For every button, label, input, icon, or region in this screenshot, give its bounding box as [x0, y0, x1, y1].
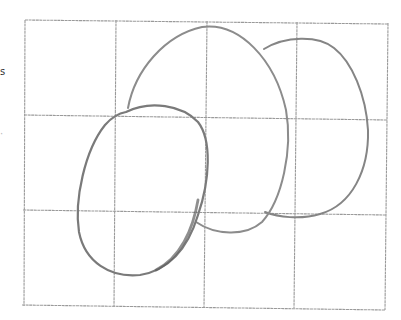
- grid-line-v0: [24, 20, 25, 306]
- left-front-oval: [78, 105, 208, 275]
- large-center-oval: [128, 27, 288, 233]
- grid-line-v4: [385, 23, 388, 310]
- grid-line-v3: [294, 22, 297, 308]
- grid-line-v2: [204, 21, 207, 307]
- grid: [22, 20, 388, 310]
- pencil-shading: [156, 200, 198, 270]
- sketch-canvas: [0, 0, 401, 320]
- grid-line-v1: [114, 20, 116, 307]
